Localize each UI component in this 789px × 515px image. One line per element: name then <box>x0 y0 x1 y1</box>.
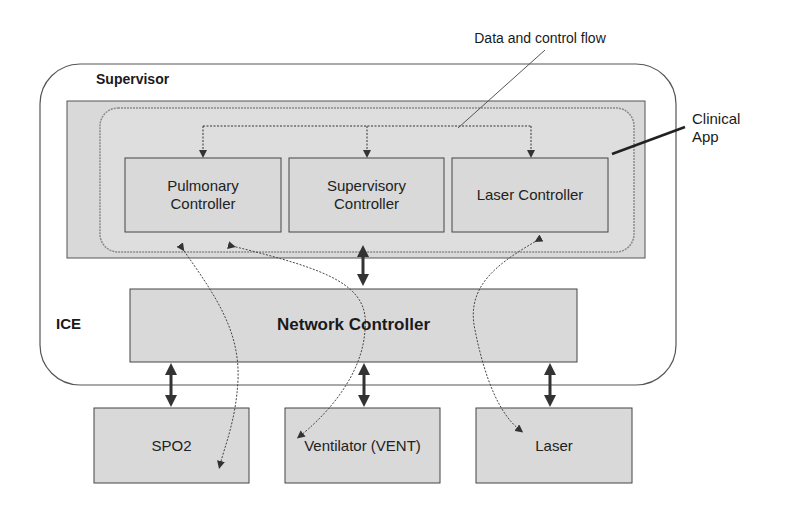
clinical-app-annotation: Clinical App <box>692 106 752 150</box>
pulmonary-controller-label: Pulmonary Controller <box>125 158 281 232</box>
clinical-app-label-line2: App <box>692 128 719 146</box>
supervisory-controller-label: Supervisory Controller <box>289 158 444 232</box>
clinical-app-label-line1: Clinical <box>692 110 740 128</box>
supervisor-label: Supervisor <box>96 70 186 88</box>
ventilator-label: Ventilator (VENT) <box>285 408 440 483</box>
ice-label: ICE <box>56 314 96 334</box>
supervisory-label-line2: Controller <box>334 195 399 213</box>
supervisory-label-line1: Supervisory <box>327 177 406 195</box>
laser-controller-label: Laser Controller <box>452 158 608 232</box>
laser-controller-label-line1: Laser Controller <box>477 186 584 204</box>
laser-label: Laser <box>476 408 632 483</box>
pulmonary-label-line1: Pulmonary <box>167 177 239 195</box>
pulmonary-label-line2: Controller <box>170 195 235 213</box>
network-controller-label: Network Controller <box>130 289 577 362</box>
data-flow-annotation: Data and control flow <box>440 28 640 48</box>
spo2-label: SPO2 <box>94 408 249 483</box>
